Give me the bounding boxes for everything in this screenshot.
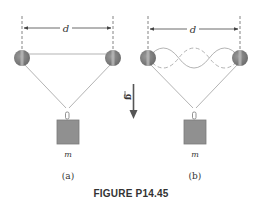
distance-label-a: d	[63, 23, 69, 34]
pulley-left	[140, 50, 156, 66]
pulley-right	[105, 50, 121, 66]
panel-label-b: (b)	[189, 171, 202, 181]
mass-hook	[193, 112, 197, 119]
string-diagonal-left	[24, 64, 66, 108]
standing-wave-dashed	[148, 48, 240, 68]
mass-label-b: m	[191, 150, 199, 159]
panel-b	[140, 16, 248, 144]
gravity-label: g	[124, 94, 134, 101]
pulley-left	[14, 50, 30, 66]
panel-label-a: (a)	[62, 171, 74, 181]
pulley-right	[232, 50, 248, 66]
gravity-vector: g	[124, 84, 138, 119]
mass-label-a: m	[64, 150, 72, 159]
distance-label-b: d	[190, 24, 196, 35]
figure-caption: FIGURE P14.45	[0, 188, 262, 199]
hanging-mass	[184, 120, 206, 144]
string-diagonal-right	[69, 64, 111, 108]
string-diagonal-left	[150, 64, 193, 108]
hanging-mass	[57, 120, 79, 144]
figure-p14-45: g d d	[0, 0, 262, 204]
panel-a	[14, 16, 121, 144]
standing-wave-solid	[148, 48, 240, 68]
mass-hook	[66, 112, 70, 119]
string-diagonal-right	[196, 64, 238, 108]
